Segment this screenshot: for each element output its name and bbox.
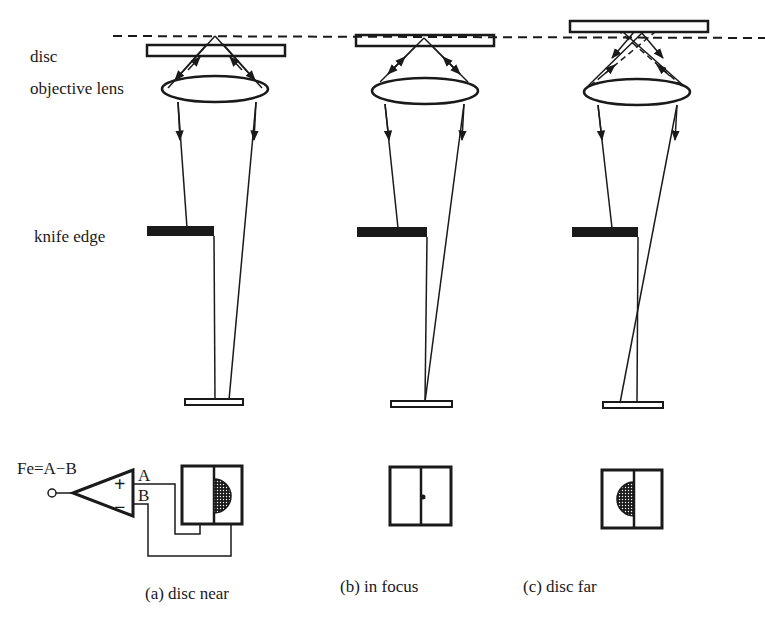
- amp-plus-sign: +: [114, 473, 125, 495]
- differential-amplifier: Fe=A−B + − A B: [17, 459, 231, 556]
- panel-c-disc-far: [570, 21, 708, 408]
- split-detector-b: [390, 467, 451, 525]
- input-label-b: B: [138, 486, 149, 505]
- knife-edge-b: [357, 227, 427, 237]
- disc-a: [147, 45, 285, 56]
- knife-edge-diagram: disc objective lens knife edge: [0, 0, 765, 621]
- light-spot-a: [214, 479, 231, 513]
- caption-b: (b) in focus: [340, 577, 418, 596]
- light-spot-b: [421, 495, 426, 500]
- objective-lens-c: [584, 79, 690, 105]
- detector-bar-a: [185, 399, 243, 405]
- objective-lens-b: [372, 78, 478, 104]
- formula-fe: Fe=A−B: [17, 459, 77, 478]
- label-objective-lens: objective lens: [30, 79, 124, 98]
- objective-lens-a: [162, 76, 268, 102]
- knife-edge-a: [147, 226, 214, 236]
- knife-edge-c: [572, 227, 638, 237]
- caption-a: (a) disc near: [145, 584, 229, 603]
- label-knife-edge: knife edge: [34, 227, 105, 246]
- detector-bar-b: [391, 401, 452, 407]
- light-spot-c: [617, 482, 634, 516]
- panel-b-in-focus: [356, 35, 494, 407]
- output-terminal: [48, 489, 56, 497]
- focal-plane-line: [113, 36, 765, 38]
- label-disc: disc: [30, 47, 58, 66]
- panel-a-disc-near: [147, 36, 285, 405]
- detector-bar-c: [603, 402, 663, 408]
- input-label-a: A: [138, 466, 151, 485]
- split-detector-c: [602, 470, 662, 528]
- split-detector-a: [182, 466, 242, 524]
- disc-c: [570, 21, 708, 32]
- caption-c: (c) disc far: [523, 577, 597, 596]
- amp-minus-sign: −: [114, 496, 125, 518]
